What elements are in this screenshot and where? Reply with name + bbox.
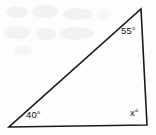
triangle-figure: 55° 40° x° (0, 0, 156, 135)
angle-label-bottom-left: 40° (26, 110, 41, 120)
angle-label-bottom-right: x° (130, 108, 139, 118)
angle-label-apex: 55° (121, 26, 136, 36)
